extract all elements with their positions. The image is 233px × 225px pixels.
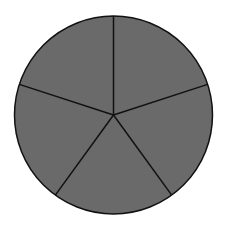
diagram-canvas xyxy=(0,0,233,225)
circle-divided-into-sectors xyxy=(0,0,233,225)
